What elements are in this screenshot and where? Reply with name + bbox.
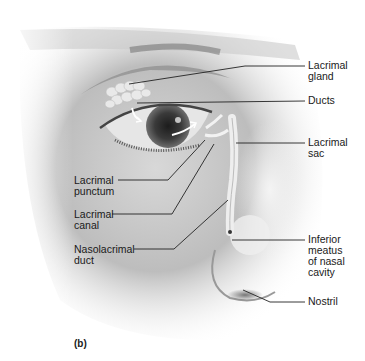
label-lacrimal-gland: Lacrimal gland [308,60,348,82]
label-ducts: Ducts [308,95,335,106]
label-lacrimal-sac: Lacrimal sac [308,137,348,159]
label-inferior-meatus: Inferior meatus of nasal cavity [308,234,345,278]
label-lacrimal-canal: Lacrimal canal [74,209,114,231]
lacrimal-apparatus-figure: Lacrimal gland Ducts Lacrimal sac Inferi… [0,0,365,361]
panel-letter: (b) [74,338,87,349]
label-lacrimal-punctum: Lacrimal punctum [74,175,114,197]
label-nasolacrimal-duct: Nasolacrimal duct [74,244,135,266]
label-nostril: Nostril [308,296,338,307]
